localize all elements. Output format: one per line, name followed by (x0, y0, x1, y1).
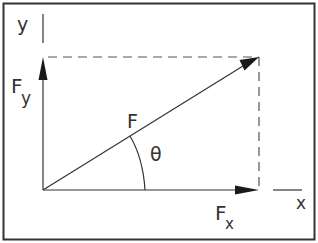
x-axis-label: x (296, 193, 306, 213)
fy-arrowhead-icon (39, 57, 48, 80)
angle-label: θ (150, 143, 162, 165)
angle-arc (130, 136, 145, 190)
y-axis-label: y (17, 13, 28, 35)
border-frame (4, 4, 315, 240)
force-diagram: y x F θ F y F x (0, 0, 318, 243)
force-label: F (127, 110, 138, 132)
fx-arrowhead-icon (235, 186, 259, 195)
fx-label: F x (215, 201, 234, 233)
fx-label-sub: x (225, 215, 234, 233)
fy-label-sub: y (21, 88, 31, 108)
diagram-container: y x F θ F y F x (0, 0, 318, 243)
f-arrowhead-icon (240, 57, 260, 71)
fy-label: F y (11, 74, 31, 108)
